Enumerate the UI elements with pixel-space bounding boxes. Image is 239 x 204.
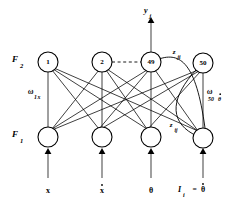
input-label-x: x — [46, 186, 50, 195]
weight-omega-sub-right-main: 50 — [208, 96, 214, 102]
input-label-xdot-dot-icon — [101, 184, 103, 186]
input-label-xdot: x — [100, 184, 104, 195]
input-label-I-sub: i — [183, 192, 185, 198]
arc-label-zij-main: z — [169, 121, 173, 129]
input-labels-group: x x θ I i = θ — [46, 183, 205, 197]
output-label-main: y — [143, 6, 148, 15]
f2-node-50[interactable]: 50 — [193, 53, 213, 73]
input-label-theta: θ — [149, 186, 153, 195]
input-label-thetadot-dot-icon — [202, 183, 204, 185]
layer-label-f2-main: F — [11, 54, 18, 64]
input-label-I-main: I — [177, 185, 182, 194]
input-label-x-text: x — [46, 186, 50, 195]
network-diagram-svg: 1 2 49 50 — [0, 0, 239, 204]
layer-label-f1-main: F — [11, 129, 18, 139]
input-arrows-group — [48, 152, 203, 178]
f2-node-2[interactable]: 2 — [92, 52, 112, 72]
f1-node-2[interactable] — [92, 127, 112, 147]
weight-omega-sub-left-italic: x — [37, 94, 41, 100]
node-circle[interactable] — [141, 127, 161, 147]
input-label-theta-text: θ — [149, 186, 153, 195]
f1-node-1[interactable] — [38, 127, 58, 147]
node-circle[interactable] — [193, 128, 213, 148]
node-circle[interactable] — [38, 127, 58, 147]
layer-label-f1: F 1 — [11, 129, 23, 144]
arc-label-zij-sub: ij — [174, 127, 178, 133]
output-label-yj: y j — [143, 6, 152, 19]
arc-label-zji-sub: ji — [176, 54, 181, 60]
f2-layer-nodes: 1 2 49 50 — [38, 52, 213, 73]
node-label: 49 — [148, 58, 156, 66]
layer-label-f2: F 2 — [11, 54, 24, 69]
node-label: 50 — [200, 59, 208, 67]
weight-omega-right-dot-icon — [219, 93, 221, 95]
arc-label-zji-main: z — [172, 48, 176, 56]
f1-node-4[interactable] — [193, 128, 213, 148]
connection-line — [107, 69, 198, 131]
f1-node-3[interactable] — [141, 127, 161, 147]
output-label-sub: j — [149, 13, 152, 19]
layer-label-f2-sub: 2 — [19, 62, 24, 69]
weight-omega-sub-right-theta: θ — [218, 96, 221, 102]
node-label: 1 — [46, 58, 50, 66]
weight-label-omega-1x: ω 1 x — [28, 87, 41, 100]
input-label-xdot-text: x — [100, 186, 104, 195]
f2-node-49[interactable]: 49 — [141, 52, 161, 72]
input-label-thetadot: I i = θ — [177, 183, 205, 197]
f2-node-1[interactable]: 1 — [38, 52, 58, 72]
node-label: 2 — [100, 58, 104, 66]
input-label-theta-right: θ — [201, 185, 205, 194]
network-diagram: 1 2 49 50 — [0, 0, 239, 204]
connection-line — [147, 72, 200, 130]
weight-label-omega-50thetadot: ω 50 θ — [207, 87, 221, 102]
layer-label-f1-sub: 1 — [20, 137, 23, 144]
input-label-equals: = — [193, 185, 197, 194]
arc-label-zij: z ij — [169, 121, 178, 133]
node-circle[interactable] — [92, 127, 112, 147]
